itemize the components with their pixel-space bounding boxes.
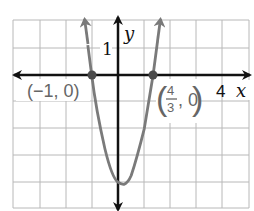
x-tick-label: 4	[216, 82, 225, 101]
svg-text:3: 3	[167, 100, 174, 115]
y-axis-label: y	[123, 23, 135, 44]
root-label-left: (−1, 0)	[27, 81, 80, 101]
root-point-left	[88, 71, 97, 80]
y-tick-label: 1	[102, 39, 113, 59]
svg-text:4: 4	[167, 83, 174, 98]
svg-text:): )	[192, 79, 203, 117]
parabola-curve	[88, 42, 158, 185]
parabola-graph: y x 4 1 (−1, 0) ( 4 3 , 0 )	[0, 0, 254, 211]
x-axis-label: x	[236, 80, 246, 101]
axes	[14, 17, 250, 210]
grid	[13, 20, 249, 208]
